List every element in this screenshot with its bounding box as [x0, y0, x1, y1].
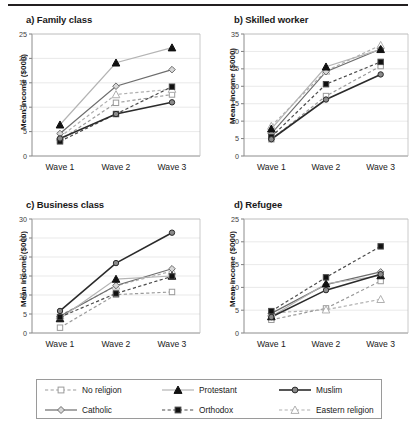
y-tick-label: 25	[231, 215, 239, 224]
figure-root: a) Family class Mean income ($000) 05101…	[0, 0, 416, 432]
x-tick-label: Wave 1	[46, 339, 75, 349]
data-point	[269, 314, 274, 319]
x-tick-label: Wave 3	[158, 162, 187, 172]
y-tick-label: 30	[19, 215, 27, 224]
legend-label-eastern-religion: Eastern religion	[316, 405, 374, 415]
data-point	[323, 97, 328, 102]
data-point	[168, 44, 176, 51]
y-tick-label: 5	[235, 134, 239, 143]
x-tick-label: Wave 1	[46, 162, 75, 172]
legend-marker	[58, 387, 64, 393]
y-tick-label: 20	[19, 253, 27, 262]
legend-item-catholic: Catholic	[37, 404, 154, 416]
x-tick-label: Wave 3	[366, 339, 395, 349]
data-point	[169, 274, 174, 279]
legend-marker-glyph	[58, 407, 65, 414]
data-point	[169, 66, 176, 73]
legend-item-muslim: Muslim	[271, 384, 383, 396]
legend-marker	[175, 407, 181, 413]
x-tick-label: Wave 2	[102, 339, 131, 349]
y-tick-label: 10	[19, 291, 27, 300]
series-line	[60, 233, 172, 311]
y-tick-label: 0	[235, 329, 239, 338]
panel-d: d) Refugee Mean income ($000) 0510152025…	[208, 193, 416, 368]
legend: No religion Protestant Muslim Catholic O…	[36, 379, 382, 419]
x-tick-label: Wave 2	[102, 162, 131, 172]
legend-symbol-filled-circle	[277, 384, 313, 396]
y-tick-label: 10	[231, 283, 239, 292]
y-tick-label: 5	[23, 127, 27, 136]
legend-label-muslim: Muslim	[316, 385, 342, 395]
y-tick-label: 15	[231, 260, 239, 269]
legend-symbol-open-square	[43, 384, 79, 396]
y-tick-label: 10	[231, 117, 239, 126]
series-markers	[57, 92, 174, 143]
legend-item-no-religion: No religion	[37, 384, 154, 396]
data-point	[269, 308, 274, 313]
legend-marker-glyph	[175, 407, 181, 413]
panel-a: a) Family class Mean income ($000) 05101…	[0, 8, 208, 193]
data-point	[323, 275, 328, 280]
x-tick-label: Wave 3	[366, 162, 395, 172]
data-point	[169, 100, 174, 105]
data-point	[113, 100, 118, 105]
legend-grid: No religion Protestant Muslim Catholic O…	[37, 380, 381, 418]
panel-b-plot: 05101520253035Wave 1Wave 2Wave 3	[208, 8, 416, 193]
x-tick-label: Wave 3	[158, 339, 187, 349]
panel-b: b) Skilled worker Mean income ($000) 051…	[208, 8, 416, 193]
data-point	[57, 314, 62, 319]
series-markers	[57, 230, 174, 314]
legend-marker-glyph	[292, 387, 298, 393]
data-point	[323, 287, 328, 292]
data-point	[113, 291, 118, 296]
data-point	[378, 244, 383, 249]
series-line	[271, 49, 380, 128]
panel-grid: a) Family class Mean income ($000) 05101…	[0, 8, 416, 368]
y-tick-label: 25	[19, 30, 27, 39]
data-point	[169, 230, 174, 235]
data-point	[113, 111, 118, 116]
y-tick-label: 15	[231, 99, 239, 108]
legend-symbol-filled-square	[160, 404, 196, 416]
data-point	[377, 295, 385, 302]
panel-a-plot: 0510152025Wave 1Wave 2Wave 3	[0, 8, 208, 193]
legend-symbol-open-triangle	[277, 404, 313, 416]
legend-item-eastern-religion: Eastern religion	[271, 404, 383, 416]
series-markers	[268, 46, 385, 133]
legend-label-orthodox: Orthodox	[199, 405, 233, 415]
y-tick-label: 15	[19, 78, 27, 87]
y-tick-label: 0	[23, 329, 27, 338]
data-point	[269, 137, 274, 142]
x-tick-label: Wave 1	[257, 339, 286, 349]
y-tick-label: 25	[19, 234, 27, 243]
y-tick-label: 20	[231, 237, 239, 246]
legend-label-catholic: Catholic	[82, 405, 112, 415]
data-point	[378, 271, 383, 276]
data-point	[169, 84, 174, 89]
data-point	[378, 59, 383, 64]
legend-marker	[292, 387, 298, 393]
data-point	[323, 81, 328, 86]
legend-marker	[58, 407, 65, 414]
legend-label-protestant: Protestant	[199, 385, 237, 395]
y-tick-label: 15	[19, 272, 27, 281]
y-tick-label: 20	[19, 54, 27, 63]
legend-label-no-religion: No religion	[82, 385, 122, 395]
x-tick-label: Wave 1	[257, 162, 286, 172]
panel-c: c) Business class Mean income ($000) 051…	[0, 193, 208, 368]
legend-item-orthodox: Orthodox	[154, 404, 271, 416]
y-tick-label: 35	[231, 30, 239, 39]
y-tick-label: 20	[231, 82, 239, 91]
legend-symbol-open-diamond	[43, 404, 79, 416]
legend-symbol-filled-triangle	[160, 384, 196, 396]
y-tick-label: 0	[23, 152, 27, 161]
panel-d-plot: 0510152025Wave 1Wave 2Wave 3	[208, 193, 416, 368]
data-point	[57, 136, 62, 141]
x-tick-label: Wave 2	[312, 339, 341, 349]
y-tick-label: 5	[235, 306, 239, 315]
legend-marker-glyph	[58, 387, 64, 393]
legend-item-protestant: Protestant	[154, 384, 271, 396]
y-tick-label: 10	[19, 103, 27, 112]
top-rule	[8, 4, 408, 6]
data-point	[169, 289, 174, 294]
